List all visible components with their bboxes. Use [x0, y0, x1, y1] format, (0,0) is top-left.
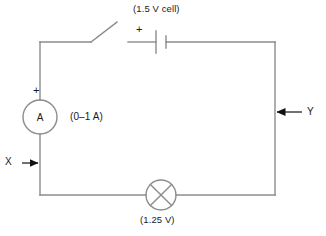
ammeter-range-label: (0–1 A)	[70, 111, 103, 122]
node-y-label: Y	[307, 106, 314, 117]
cell-label: (1.5 V cell)	[133, 4, 180, 14]
switch-lever[interactable]	[91, 22, 117, 42]
ammeter-letter: A	[37, 112, 44, 123]
circuit-schematic: A	[0, 0, 326, 236]
circuit-diagram-canvas: A (1.5 V cell) + + (0–1 A) (1.25 V) X Y	[0, 0, 326, 236]
ammeter-positive-sign: +	[33, 84, 40, 96]
node-x-label: X	[5, 156, 12, 167]
battery-positive-sign: +	[136, 23, 143, 35]
lamp-rating-label: (1.25 V)	[140, 215, 175, 225]
